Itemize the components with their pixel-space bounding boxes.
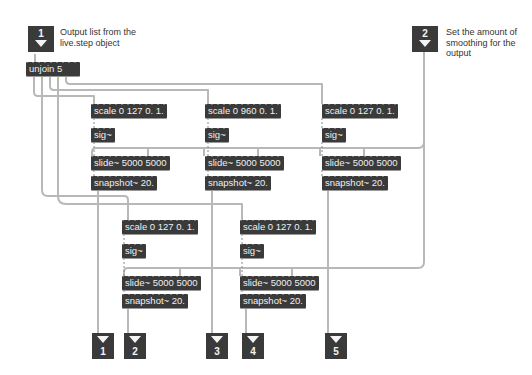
scale-object-1[interactable]: scale 0 127 0. 1. [91,104,167,118]
scale-object-4[interactable]: scale 0 127 0. 1. [122,220,198,234]
arrow-down-icon [211,336,223,343]
scale-object-2[interactable]: scale 0 960 0. 1. [205,104,281,118]
sig-object-3[interactable]: sig~ [322,128,346,142]
unjoin-object[interactable]: unjoin 5 [26,62,80,76]
inlet-2[interactable]: 2 [412,26,438,52]
sig-object-4[interactable]: sig~ [122,244,146,258]
slide-object-4[interactable]: slide~ 5000 5000 [122,276,201,290]
arrow-down-icon [129,336,141,343]
slide-object-5[interactable]: slide~ 5000 5000 [240,276,319,290]
snapshot-object-5[interactable]: snapshot~ 20. [240,294,306,308]
arrow-down-icon [97,336,109,343]
arrow-down-icon [330,336,342,343]
inlet-1-comment: Output list from the live.step object [60,27,150,48]
snapshot-object-2[interactable]: snapshot~ 20. [205,176,271,190]
scale-object-5[interactable]: scale 0 127 0. 1. [240,220,316,234]
snapshot-object-3[interactable]: snapshot~ 20. [322,176,388,190]
scale-object-3[interactable]: scale 0 127 0. 1. [322,104,398,118]
arrow-down-icon [419,40,431,47]
inlet-1[interactable]: 1 [28,26,54,52]
sig-object-1[interactable]: sig~ [91,128,115,142]
outlet-2[interactable]: 2 [124,333,146,359]
slide-object-3[interactable]: slide~ 5000 5000 [322,156,401,170]
outlet-3[interactable]: 3 [206,333,228,359]
sig-object-2[interactable]: sig~ [205,128,229,142]
sig-object-5[interactable]: sig~ [240,244,264,258]
inlet-2-comment: Set the amount of smoothing for the outp… [446,27,526,59]
slide-object-2[interactable]: slide~ 5000 5000 [205,156,284,170]
snapshot-object-1[interactable]: snapshot~ 20. [91,176,157,190]
snapshot-object-4[interactable]: snapshot~ 20. [122,294,188,308]
outlet-5[interactable]: 5 [325,333,347,359]
arrow-down-icon [35,40,47,47]
arrow-down-icon [247,336,259,343]
slide-object-1[interactable]: slide~ 5000 5000 [91,156,170,170]
outlet-1[interactable]: 1 [92,333,114,359]
outlet-4[interactable]: 4 [242,333,264,359]
